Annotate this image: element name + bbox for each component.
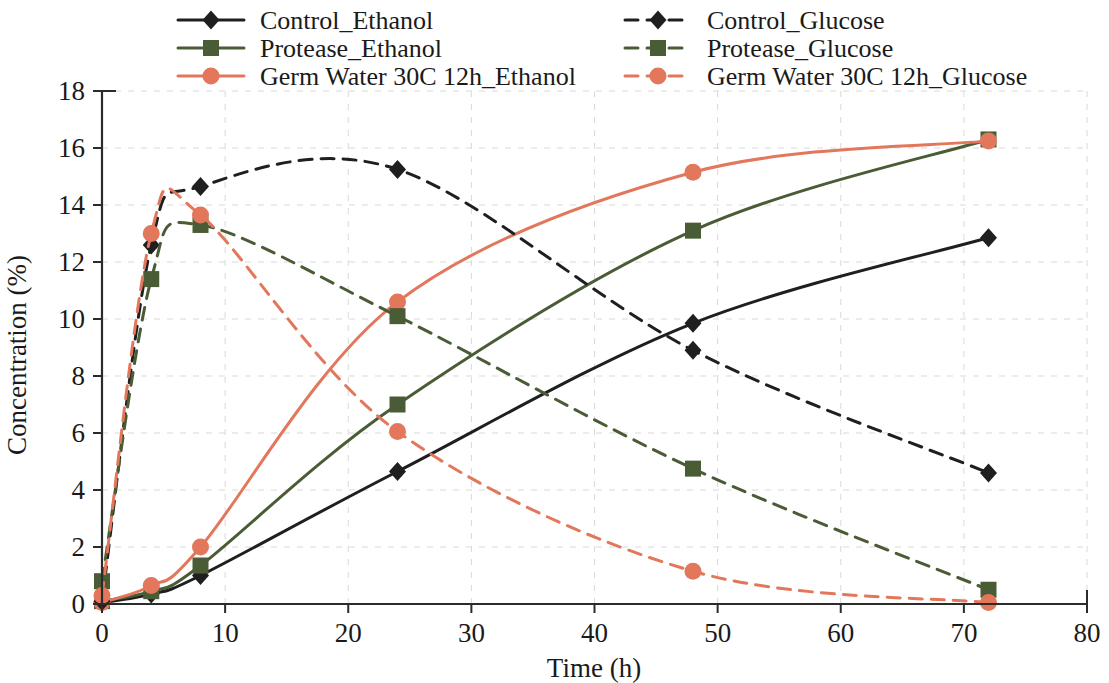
legend-marker (650, 40, 666, 56)
line-chart: 02468101214161801020304050607080 Control… (0, 0, 1109, 683)
y-tick-label: 0 (72, 589, 86, 619)
data-point (143, 577, 160, 594)
x-tick-label: 10 (212, 618, 239, 648)
x-tick-label: 20 (335, 618, 362, 648)
x-tick-label: 80 (1074, 618, 1101, 648)
x-tick-label: 0 (95, 618, 109, 648)
y-tick-label: 14 (58, 190, 86, 220)
x-tick-label: 30 (458, 618, 485, 648)
legend-label: Protease_Glucose (707, 34, 893, 63)
y-tick-label: 10 (58, 304, 85, 334)
x-tick-label: 40 (581, 618, 608, 648)
y-tick-label: 4 (72, 475, 86, 505)
data-point (192, 539, 209, 556)
data-point (143, 225, 160, 242)
data-point (980, 132, 997, 149)
x-tick-label: 60 (827, 618, 854, 648)
y-tick-label: 6 (72, 418, 86, 448)
data-point (980, 594, 997, 611)
y-tick-label: 16 (58, 133, 85, 163)
legend-label: Germ Water 30C 12h_Ethanol (260, 62, 576, 91)
legend-marker (203, 40, 219, 56)
legend-label: Protease_Ethanol (260, 34, 442, 63)
y-axis-title: Concentration (%) (2, 255, 32, 455)
y-tick-label: 2 (72, 532, 86, 562)
x-tick-label: 50 (704, 618, 731, 648)
x-tick-label: 70 (950, 618, 977, 648)
data-point (390, 308, 406, 324)
y-tick-label: 18 (58, 76, 85, 106)
data-point (390, 397, 406, 413)
data-point (685, 164, 702, 181)
legend-marker (203, 68, 220, 85)
data-point (685, 563, 702, 580)
legend-label: Control_Ethanol (260, 6, 433, 35)
y-tick-label: 8 (72, 361, 86, 391)
data-point (192, 206, 209, 223)
x-axis-title: Time (h) (547, 653, 641, 683)
data-point (685, 223, 701, 239)
data-point (193, 558, 209, 574)
chart-page: 02468101214161801020304050607080 Control… (0, 0, 1109, 683)
data-point (143, 271, 159, 287)
legend-marker (650, 68, 667, 85)
data-point (389, 293, 406, 310)
data-point (685, 461, 701, 477)
y-tick-label: 12 (58, 247, 85, 277)
data-point (389, 423, 406, 440)
legend-label: Germ Water 30C 12h_Glucose (707, 62, 1027, 91)
legend-label: Control_Glucose (707, 6, 885, 35)
